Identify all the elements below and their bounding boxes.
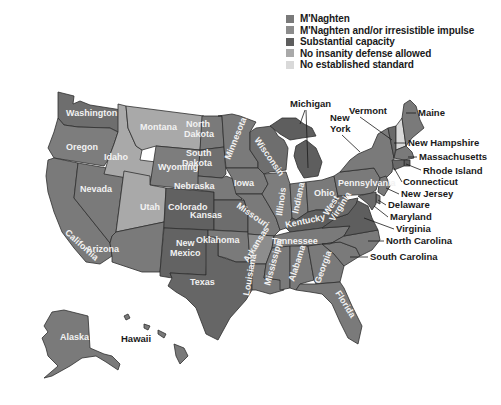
label-texas: Texas: [190, 277, 215, 287]
label-pennsylvania: Pennsylvania: [338, 178, 397, 188]
label-north-dakota-2: Dakota: [184, 129, 215, 139]
label-south-dakota-1: South: [186, 148, 212, 158]
label-new-hampshire: New Hampshire: [408, 137, 479, 148]
label-virginia: Virginia: [396, 223, 431, 234]
label-nevada: Nevada: [80, 184, 113, 194]
label-south-carolina: South Carolina: [370, 251, 438, 262]
label-iowa: Iowa: [234, 178, 255, 188]
label-vermont: Vermont: [349, 105, 388, 116]
us-map: Washington Oregon California Nevada Idah…: [0, 0, 501, 405]
state-hawaii-kauai[interactable]: [124, 314, 130, 320]
label-nebraska: Nebraska: [174, 181, 216, 191]
label-rhode-island: Rhode Island: [423, 165, 483, 176]
state-hawaii-big-island[interactable]: [174, 344, 188, 364]
label-north-dakota-1: North: [186, 119, 210, 129]
state-hawaii-oahu[interactable]: [144, 324, 150, 330]
label-connecticut: Connecticut: [403, 176, 459, 187]
state-alaska[interactable]: [42, 310, 120, 378]
label-montana: Montana: [140, 122, 178, 132]
label-utah: Utah: [140, 202, 160, 212]
label-washington: Washington: [66, 108, 117, 118]
state-connecticut[interactable]: [392, 160, 404, 170]
label-new-jersey: New Jersey: [401, 188, 454, 199]
label-massachusetts: Massachusetts: [419, 151, 487, 162]
leader-maryland: [374, 206, 388, 217]
label-oklahoma: Oklahoma: [196, 235, 241, 245]
label-michigan: Michigan: [290, 98, 331, 109]
label-arizona: Arizona: [86, 244, 120, 254]
label-new-york-1: New: [330, 112, 350, 123]
leader-michigan: [300, 110, 305, 124]
label-new-mexico-1: New: [176, 238, 196, 248]
leader-new-jersey: [386, 188, 399, 194]
state-delaware[interactable]: [376, 194, 380, 204]
label-maryland: Maryland: [390, 211, 432, 222]
label-kansas: Kansas: [190, 210, 222, 220]
label-hawaii: Hawaii: [121, 333, 151, 344]
label-maine: Maine: [418, 107, 445, 118]
label-north-carolina: North Carolina: [386, 235, 453, 246]
leader-rhode-island: [406, 164, 421, 170]
leader-new-york: [342, 135, 360, 152]
label-south-dakota-2: Dakota: [182, 158, 213, 168]
label-oregon: Oregon: [66, 142, 98, 152]
label-delaware: Delaware: [388, 199, 430, 210]
label-new-york-2: York: [330, 123, 351, 134]
label-idaho: Idaho: [104, 152, 129, 162]
state-hawaii-maui[interactable]: [158, 330, 166, 338]
label-alaska: Alaska: [60, 332, 90, 342]
label-new-mexico-2: Mexico: [170, 248, 201, 258]
